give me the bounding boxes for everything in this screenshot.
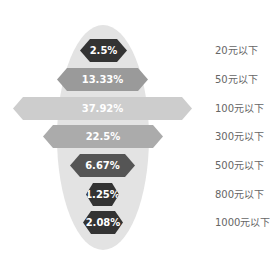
bar-1000: 2.08% [83, 211, 123, 234]
bar-20: 2.5% [80, 39, 127, 62]
bar-300: 22.5% [43, 125, 163, 148]
label-50: 50元以下 [215, 68, 258, 91]
label-300: 300元以下 [215, 125, 264, 148]
label-1000: 1000元以下 [215, 211, 270, 234]
bar-800: 1.25% [86, 183, 119, 206]
label-100: 100元以下 [215, 97, 264, 120]
bar-100: 37.92% [13, 97, 192, 120]
label-20: 20元以下 [215, 39, 258, 62]
label-800: 800元以下 [215, 183, 264, 206]
price-distribution-chart: 2.5% 13.33% 37.92% 22.5% 6.67% 1.25% 2.0… [0, 0, 270, 260]
bar-500: 6.67% [70, 154, 135, 177]
label-500: 500元以下 [215, 154, 264, 177]
bar-50: 13.33% [57, 68, 148, 91]
